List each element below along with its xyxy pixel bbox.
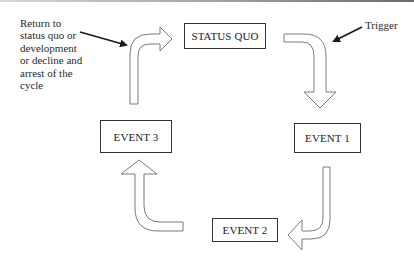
annotation-return-note: Return to status quo or development or d… — [20, 17, 100, 91]
annotation-line: development — [20, 42, 100, 54]
node-event-1: EVENT 1 — [294, 123, 361, 153]
arrow-event1-to-event2 — [288, 167, 330, 250]
annotation-trigger: Trigger — [365, 19, 398, 31]
node-status-quo-label: STATUS QUO — [191, 30, 258, 42]
annotation-line: Return to — [20, 17, 100, 29]
node-event-2: EVENT 2 — [212, 218, 278, 242]
arrow-event2-to-event3 — [121, 160, 183, 231]
annotation-line: or decline and — [20, 54, 100, 66]
node-event-2-label: EVENT 2 — [223, 224, 268, 236]
annotation-line: arrest of the — [20, 67, 100, 79]
arrow-statusquo-to-event1 — [284, 34, 336, 108]
annotation-line: status quo or — [20, 29, 100, 41]
arrow-event3-to-statusquo — [130, 27, 172, 104]
pointer-trigger — [334, 27, 362, 41]
node-event-1-label: EVENT 1 — [305, 132, 350, 144]
annotation-line: cycle — [20, 79, 100, 91]
node-event-3-label: EVENT 3 — [114, 131, 159, 143]
node-event-3: EVENT 3 — [100, 120, 172, 153]
node-status-quo: STATUS QUO — [184, 23, 266, 49]
